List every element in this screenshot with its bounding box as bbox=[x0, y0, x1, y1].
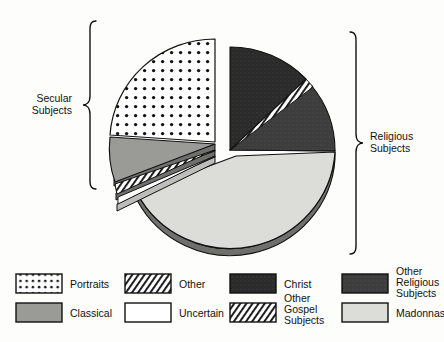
religious-label-line2: Subjects bbox=[370, 142, 410, 154]
secular-label-line2: Subjects bbox=[32, 104, 72, 116]
secular-label-line1: Secular bbox=[36, 92, 72, 104]
uncertain-label: Uncertain bbox=[179, 307, 224, 319]
other-gospel-subjects-swatch bbox=[230, 303, 276, 322]
other-religious-subjects-swatch bbox=[342, 274, 388, 293]
christ-label: Christ bbox=[284, 278, 312, 290]
classical-label: Classical bbox=[70, 307, 112, 319]
portraits-label: Portraits bbox=[70, 278, 109, 290]
portraits-swatch bbox=[16, 274, 62, 293]
uncertain-swatch bbox=[125, 303, 171, 322]
religious-label-line1: Religious bbox=[370, 130, 413, 142]
chart-stage: Secular Subjects Religious Subjects Port… bbox=[0, 0, 444, 342]
orsubj-label-line3: Subjects bbox=[396, 287, 436, 299]
christ-swatch bbox=[230, 274, 276, 293]
madonnas-label: Madonnas bbox=[396, 307, 444, 319]
other-label: Other bbox=[179, 278, 206, 290]
gospel-label-line3: Subjects bbox=[284, 314, 324, 326]
madonnas-swatch bbox=[342, 303, 388, 322]
pie-chart-figure: Secular Subjects Religious Subjects Port… bbox=[0, 0, 444, 342]
classical-swatch bbox=[16, 303, 62, 322]
other-swatch bbox=[125, 274, 171, 293]
